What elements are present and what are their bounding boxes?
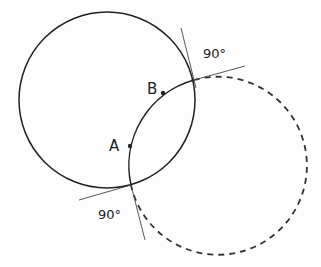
point-b-label: B — [147, 80, 157, 98]
tangent-line-upper-1 — [181, 28, 196, 88]
angle-label-upper: 90° — [203, 46, 226, 61]
diagram-canvas: A B 90° 90° — [0, 0, 321, 267]
point-b-dot — [161, 91, 165, 95]
tangent-line-upper-2 — [194, 66, 245, 80]
point-a-label: A — [109, 137, 120, 155]
solid-circle — [19, 12, 195, 188]
orthogonal-circles-diagram: A B 90° 90° — [0, 0, 321, 267]
dashed-circle-arc — [131, 77, 307, 255]
tangent-line-lower-2 — [131, 185, 145, 240]
point-a-dot — [128, 144, 132, 148]
angle-label-lower: 90° — [98, 207, 121, 222]
